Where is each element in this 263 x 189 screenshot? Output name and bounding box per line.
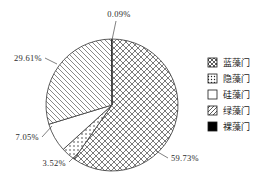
legend-item-lvzaomen[interactable]: 绿藻门 xyxy=(208,105,250,116)
leader-line-lower-left xyxy=(42,126,52,137)
legend-label-guizaomen: 硅藻门 xyxy=(223,89,250,100)
legend-swatch-solid-black-icon xyxy=(208,122,217,131)
legend-item-guizaomen[interactable]: 硅藻门 xyxy=(208,89,250,100)
label-pct-lanzaomen: 59.73% xyxy=(171,153,199,163)
label-pct-yinzaomen: 3.52% xyxy=(43,158,66,168)
legend-label-yinzaomen: 隐藻门 xyxy=(223,73,250,84)
legend-swatch-blank-icon xyxy=(208,90,217,99)
legend: 蓝藻门 隐藻门 硅藻门 绿藻门 裸藻门 xyxy=(208,57,250,132)
pie-slices xyxy=(46,39,178,171)
legend-label-lvzaomen: 绿藻门 xyxy=(223,105,250,116)
label-pct-guizaomen: 7.05% xyxy=(16,132,39,142)
leader-line-upper-left xyxy=(45,58,57,64)
legend-item-luozaomen[interactable]: 裸藻门 xyxy=(208,121,250,132)
legend-swatch-diagonal-hatch-icon xyxy=(208,106,217,115)
legend-item-lanzaomen[interactable]: 蓝藻门 xyxy=(208,57,250,68)
legend-item-yinzaomen[interactable]: 隐藻门 xyxy=(208,73,250,84)
leader-line-top xyxy=(112,21,116,40)
label-pct-lvzaomen: 29.61% xyxy=(14,53,42,63)
legend-swatch-cross-hatch-icon xyxy=(208,58,217,67)
leader-line-bottom-right xyxy=(156,151,168,158)
legend-label-lanzaomen: 蓝藻门 xyxy=(223,57,250,68)
label-pct-luozaomen: 0.09% xyxy=(107,9,130,19)
legend-label-luozaomen: 裸藻门 xyxy=(223,121,250,132)
legend-swatch-dotted-icon xyxy=(208,74,217,83)
pie-chart-figure: 0.09% 29.61% 7.05% 3.52% 59.73% 蓝藻门 隐藻门 … xyxy=(0,0,263,189)
